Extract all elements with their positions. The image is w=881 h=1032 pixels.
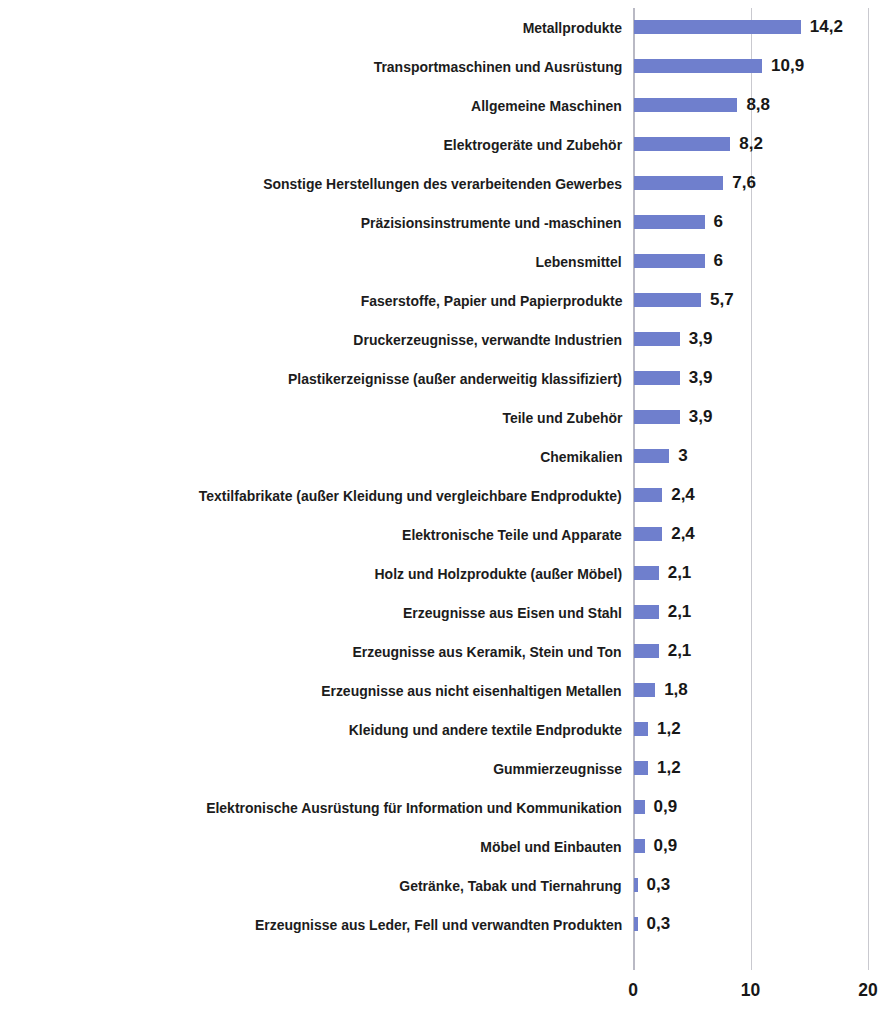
bar-value-label: 8,8 — [746, 95, 770, 115]
category-label-text: Allgemeine Maschinen — [471, 96, 622, 115]
bar — [634, 137, 730, 151]
bar — [634, 293, 701, 307]
category-label-text: Elektrogeräte und Zubehör — [443, 135, 622, 154]
bar-row: Erzeugnisse aus nicht eisenhaltigen Meta… — [0, 671, 881, 710]
category-label-text: Erzeugnisse aus Leder, Fell und verwandt… — [255, 915, 622, 934]
category-label: Allgemeine Maschinen — [0, 96, 622, 115]
bar-value-label: 0,9 — [654, 797, 678, 817]
bar-value-label: 2,1 — [668, 641, 692, 661]
bar-row: Gummierzeugnisse1,2 — [0, 749, 881, 788]
bar — [634, 917, 638, 931]
bar-row: Chemikalien3 — [0, 437, 881, 476]
category-label-text: Druckerzeugnisse, verwandte Industrien — [353, 330, 622, 349]
category-label: Erzeugnisse aus nicht eisenhaltigen Meta… — [0, 681, 622, 700]
category-label-text: Textilfabrikate (außer Kleidung und verg… — [199, 486, 622, 505]
category-label-text: Elektronische Ausrüstung für Information… — [206, 798, 622, 817]
bar-value-label: 6 — [714, 251, 723, 271]
category-label: Faserstoffe, Papier und Papierprodukte — [0, 291, 622, 310]
x-tick-label: 20 — [858, 980, 877, 1001]
bar — [634, 644, 659, 658]
bar-row: Faserstoffe, Papier und Papierprodukte5,… — [0, 281, 881, 320]
category-label: Teile und Zubehör — [0, 408, 622, 427]
category-label: Chemikalien — [0, 447, 622, 466]
bar — [634, 176, 723, 190]
category-label-text: Metallprodukte — [523, 18, 622, 37]
bar — [634, 878, 638, 892]
bar — [634, 488, 662, 502]
bar — [634, 371, 680, 385]
bar-value-label: 0,9 — [654, 836, 678, 856]
plot-area: Metallprodukte14,2Transportmaschinen und… — [0, 0, 881, 1032]
bar — [634, 683, 655, 697]
category-label: Erzeugnisse aus Keramik, Stein und Ton — [0, 642, 622, 661]
bar — [634, 20, 801, 34]
bar-value-label: 5,7 — [710, 290, 734, 310]
bar-value-label: 1,8 — [664, 680, 688, 700]
bar — [634, 722, 648, 736]
bar-row: Elektrogeräte und Zubehör8,2 — [0, 125, 881, 164]
category-label: Möbel und Einbauten — [0, 837, 622, 856]
category-label-text: Möbel und Einbauten — [481, 837, 622, 856]
bar-row: Kleidung und andere textile Endprodukte1… — [0, 710, 881, 749]
category-label: Sonstige Herstellungen des verarbeitende… — [0, 174, 622, 193]
bar-row: Elektronische Teile und Apparate2,4 — [0, 515, 881, 554]
bar-row: Möbel und Einbauten0,9 — [0, 827, 881, 866]
bar-row: Erzeugnisse aus Keramik, Stein und Ton2,… — [0, 632, 881, 671]
bar-value-label: 0,3 — [647, 875, 671, 895]
bar-value-label: 7,6 — [732, 173, 756, 193]
category-label: Transportmaschinen und Ausrüstung — [0, 57, 622, 76]
bar-value-label: 6 — [714, 212, 723, 232]
bar-row: Lebensmittel6 — [0, 242, 881, 281]
bar-value-label: 2,1 — [668, 602, 692, 622]
bar-row: Präzisionsinstrumente und -maschinen6 — [0, 203, 881, 242]
bar — [634, 527, 662, 541]
category-label: Getränke, Tabak und Tiernahrung — [0, 876, 622, 895]
category-label-text: Erzeugnisse aus Eisen und Stahl — [403, 603, 622, 622]
category-label-text: Faserstoffe, Papier und Papierprodukte — [360, 291, 622, 310]
bar-row: Druckerzeugnisse, verwandte Industrien3,… — [0, 320, 881, 359]
category-label: Kleidung und andere textile Endprodukte — [0, 720, 622, 739]
bar — [634, 332, 680, 346]
category-label: Holz und Holzprodukte (außer Möbel) — [0, 564, 622, 583]
bar — [634, 566, 659, 580]
bar-row: Transportmaschinen und Ausrüstung10,9 — [0, 47, 881, 86]
category-label-text: Chemikalien — [540, 447, 622, 466]
bar-value-label: 2,4 — [671, 485, 695, 505]
category-label: Erzeugnisse aus Leder, Fell und verwandt… — [0, 915, 622, 934]
bar-value-label: 3,9 — [689, 407, 713, 427]
category-label-text: Getränke, Tabak und Tiernahrung — [400, 876, 622, 895]
bar-row: Metallprodukte14,2 — [0, 8, 881, 47]
category-label-text: Sonstige Herstellungen des verarbeitende… — [263, 174, 622, 193]
bar-chart: Metallprodukte14,2Transportmaschinen und… — [0, 0, 881, 1032]
category-label: Gummierzeugnisse — [0, 759, 622, 778]
category-label: Erzeugnisse aus Eisen und Stahl — [0, 603, 622, 622]
bar — [634, 98, 737, 112]
category-label-text: Lebensmittel — [536, 252, 622, 271]
bar — [634, 605, 659, 619]
bar-row: Elektronische Ausrüstung für Information… — [0, 788, 881, 827]
category-label: Elektrogeräte und Zubehör — [0, 135, 622, 154]
category-label-text: Transportmaschinen und Ausrüstung — [373, 57, 622, 76]
category-label-text: Kleidung und andere textile Endprodukte — [349, 720, 622, 739]
category-label: Textilfabrikate (außer Kleidung und verg… — [0, 486, 622, 505]
category-label: Elektronische Ausrüstung für Information… — [0, 798, 622, 817]
bar — [634, 215, 705, 229]
bar-value-label: 3,9 — [689, 329, 713, 349]
bar-row: Plastikerzeignisse (außer anderweitig kl… — [0, 359, 881, 398]
bar-row: Allgemeine Maschinen8,8 — [0, 86, 881, 125]
category-label-text: Erzeugnisse aus Keramik, Stein und Ton — [353, 642, 622, 661]
bar-value-label: 3 — [678, 446, 687, 466]
bar-row: Getränke, Tabak und Tiernahrung0,3 — [0, 866, 881, 905]
bar — [634, 410, 680, 424]
bar-value-label: 2,4 — [671, 524, 695, 544]
x-tick-label: 0 — [628, 980, 638, 1001]
category-label: Plastikerzeignisse (außer anderweitig kl… — [0, 369, 622, 388]
bar-value-label: 8,2 — [739, 134, 763, 154]
bar-value-label: 1,2 — [657, 758, 681, 778]
bar-row: Sonstige Herstellungen des verarbeitende… — [0, 164, 881, 203]
category-label-text: Plastikerzeignisse (außer anderweitig kl… — [288, 369, 622, 388]
category-label-text: Erzeugnisse aus nicht eisenhaltigen Meta… — [322, 681, 622, 700]
bar-value-label: 2,1 — [668, 563, 692, 583]
category-label-text: Holz und Holzprodukte (außer Möbel) — [374, 564, 622, 583]
category-label-text: Präzisionsinstrumente und -maschinen — [361, 213, 622, 232]
